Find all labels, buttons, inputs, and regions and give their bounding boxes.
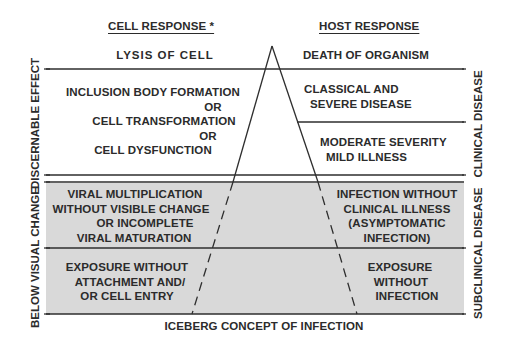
host-response-header: HOST RESPONSE — [319, 19, 419, 34]
left-axis-below-visual-change: BELOW VISUAL CHANGE — [29, 188, 43, 328]
cell-level-exposure: EXPOSURE WITHOUT ATTACHMENT AND/ OR CELL… — [56, 260, 198, 304]
cell-level-visible-change: INCLUSION BODY FORMATION OR CELL TRANSFO… — [58, 85, 248, 158]
host-level-moderate: MODERATE SEVERITY MILD ILLNESS — [320, 135, 460, 164]
iceberg-diagram: CELL RESPONSE * HOST RESPONSE LYSIS OF C… — [0, 0, 508, 354]
diagram-caption: ICEBERG CONCEPT OF INFECTION — [154, 319, 374, 334]
host-level-exposure: EXPOSURE WITHOUT INFECTION — [358, 260, 448, 304]
iceberg-right-edge — [272, 46, 318, 182]
host-level-death: DEATH OF ORGANISM — [296, 48, 436, 63]
cell-level-viral-multiplication: VIRAL MULTIPLICATION WITHOUT VISIBLE CHA… — [46, 187, 216, 245]
left-axis-discernable-effect: DISCERNABLE EFFECT — [29, 59, 43, 189]
cell-level-lysis: LYSIS OF CELL — [100, 48, 230, 63]
host-level-severe: CLASSICAL AND SEVERE DISEASE — [300, 82, 430, 111]
right-axis-subclinical-disease: SUBCLINICAL DISEASE — [472, 189, 486, 319]
right-axis-clinical-disease: CLINICAL DISEASE — [472, 69, 486, 179]
host-level-asymptomatic: INFECTION WITHOUT CLINICAL ILLNESS (ASYM… — [334, 187, 460, 245]
cell-response-header: CELL RESPONSE * — [108, 19, 208, 34]
